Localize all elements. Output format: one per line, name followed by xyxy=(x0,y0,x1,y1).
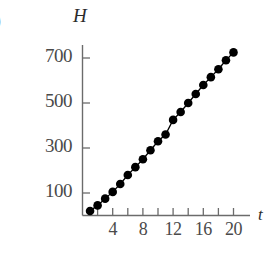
data-point xyxy=(184,99,193,108)
plot-area xyxy=(0,0,279,255)
x-tick-label: 8 xyxy=(128,219,158,240)
data-point xyxy=(199,81,208,90)
x-tick-marks xyxy=(98,208,234,216)
data-point xyxy=(169,116,178,125)
data-point xyxy=(214,65,223,74)
y-tick-label: 700 xyxy=(18,45,72,67)
y-tick-label: 100 xyxy=(18,180,72,202)
data-point xyxy=(124,171,133,180)
data-point xyxy=(101,194,110,203)
data-point xyxy=(222,56,231,65)
data-point xyxy=(108,188,117,197)
x-tick-label: 16 xyxy=(188,219,218,240)
y-tick-label: 500 xyxy=(18,90,72,112)
data-point xyxy=(131,163,140,172)
data-point xyxy=(161,130,170,139)
data-point xyxy=(139,155,148,164)
data-point xyxy=(116,180,125,189)
data-point xyxy=(191,90,200,99)
chart-figure: ) H t 100300500700 48121620 xyxy=(0,0,279,255)
x-tick-label: 4 xyxy=(98,219,128,240)
axis-lines xyxy=(83,45,251,216)
data-point xyxy=(207,73,216,82)
x-tick-label: 12 xyxy=(158,219,188,240)
data-point xyxy=(154,137,163,146)
data-point xyxy=(176,108,185,117)
data-point xyxy=(146,146,155,155)
y-tick-marks xyxy=(83,58,91,193)
data-point xyxy=(229,48,238,57)
data-point xyxy=(93,201,102,210)
y-tick-label: 300 xyxy=(18,135,72,157)
data-point xyxy=(86,207,95,216)
x-tick-label: 20 xyxy=(219,219,249,240)
